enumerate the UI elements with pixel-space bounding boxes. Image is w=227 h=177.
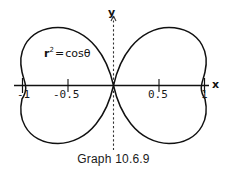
equation-expression: cos: [65, 47, 84, 60]
x-tick-label-1: 1: [201, 88, 208, 101]
equation-equals: =: [55, 47, 64, 60]
equation-exponent: 2: [49, 46, 53, 54]
equation-angle-theta: θ: [84, 47, 91, 60]
x-axis-label: x: [212, 78, 219, 91]
lemniscate-plot: [0, 0, 227, 177]
x-tick-label-neg1: -1: [17, 88, 30, 101]
y-axis-label: y: [108, 6, 115, 19]
equation-annotation: r2=cosθ: [44, 47, 90, 60]
x-tick-label-0point5: 0.5: [148, 88, 168, 101]
x-tick-label-neg0point5: -0.5: [53, 88, 80, 101]
figure-caption: Graph 10.6.9: [0, 152, 227, 166]
figure-container: r2=cosθ -1 -0.5 0.5 1 x y Graph 10.6.9: [0, 0, 227, 177]
